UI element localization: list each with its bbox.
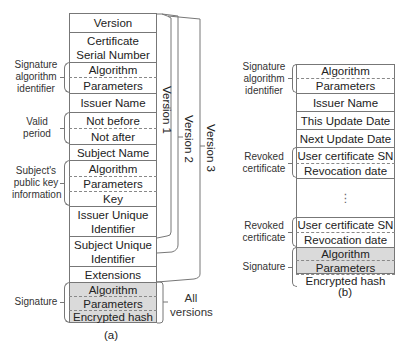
label-version-2: Version 2 [183,115,195,163]
label-version-3: Version 3 [205,124,217,172]
caption-a: (a) [104,329,118,341]
label-revoked-certificate-2: Revoked certificate [242,220,286,244]
brace-tick [288,267,292,268]
cell-text: This Update Date [301,114,391,128]
label-line: Revoked [242,151,286,163]
brace-revoked-certificate-2 [292,217,297,247]
label-line: versions [170,305,212,319]
cell-text: Revocation date [304,233,387,247]
label-line: Signature [242,61,286,73]
cell-text: Parameters [316,79,375,93]
brace-tick [288,78,292,79]
row-revocation-date-1: Revocation date [296,163,395,178]
brace-signature [292,247,297,287]
row-user-cert-sn-2: User certificate SN [296,217,395,232]
row-this-update-date: This Update Date [296,111,395,129]
label-signature: Signature [242,261,286,273]
brace-tick [288,163,292,164]
label-line: certificate [242,163,286,175]
row-signature-algorithm: Algorithm [296,247,395,260]
row-issuer-name: Issuer Name [296,93,395,111]
cell-text: Issuer Name [313,96,378,110]
caption-b: (b) [338,286,352,298]
cell-text: Algorithm [321,64,370,78]
brace-tick [288,232,292,233]
row-next-update-date: Next Update Date [296,129,395,147]
cell-text: User certificate SN [298,149,394,163]
cell-text: Algorithm [321,247,370,261]
row-sig-algorithm: Algorithm [296,64,395,78]
brace-sig-alg-id [292,64,297,93]
label-line: certificate [242,232,286,244]
row-signature-parameters: Parameters [296,260,395,274]
row-sig-parameters: Parameters [296,78,395,93]
label-version-1: Version 1 [161,86,173,134]
brace-revoked-certificate-1 [292,147,297,178]
label-revoked-certificate-1: Revoked certificate [242,151,286,175]
ellipsis-icon: ⋮ [340,191,352,205]
cell-text: Next Update Date [300,132,391,146]
row-user-cert-sn-1: User certificate SN [296,147,395,163]
cell-text: Revocation date [304,164,387,178]
label-line: identifier [242,85,286,97]
label-line: All [170,291,212,305]
label-line: algorithm [242,73,286,85]
cell-text: User certificate SN [298,218,394,232]
label-signature-algorithm-identifier: Signature algorithm identifier [242,61,286,97]
row-ellipsis: ⋮ [296,178,395,217]
label-line: Signature [242,261,286,273]
label-line: Revoked [242,220,286,232]
row-revocation-date-2: Revocation date [296,232,395,247]
cell-text: Parameters [316,261,375,275]
label-all-versions: All versions [170,291,212,319]
